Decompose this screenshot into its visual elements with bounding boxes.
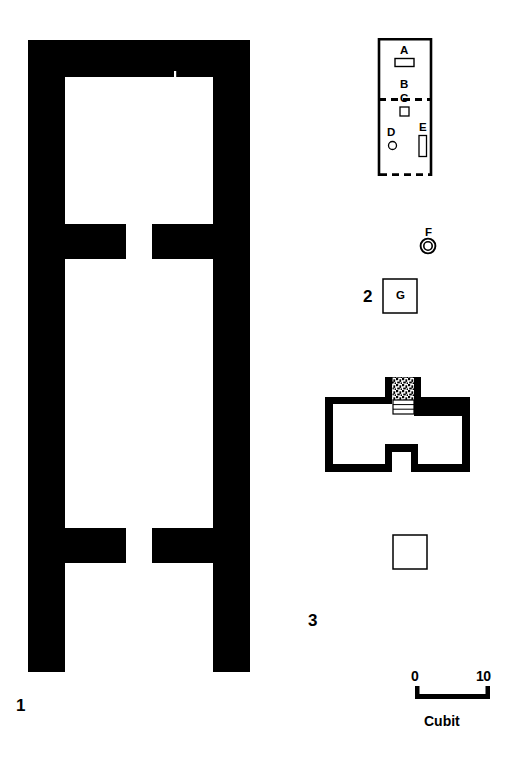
feature-label-d: D xyxy=(387,127,395,139)
plan-1-wall-nick xyxy=(174,71,176,78)
scale-min-label: 0 xyxy=(411,669,418,683)
plan-2-feature-f-shape xyxy=(421,239,436,254)
feature-label-f: F xyxy=(425,227,432,239)
scale-max-label: 10 xyxy=(476,669,491,683)
feature-label-c: C xyxy=(400,93,408,105)
plan-2-feature-d-shape xyxy=(389,142,397,150)
plan-2-number-label: 2 xyxy=(363,288,372,305)
scale-unit-label: Cubit xyxy=(424,714,460,728)
feature-label-b: B xyxy=(400,79,408,91)
plan-drawing-svg xyxy=(0,0,514,772)
feature-label-e: E xyxy=(419,122,427,134)
plan-3-detached-square xyxy=(393,535,427,569)
feature-label-a: A xyxy=(400,45,408,57)
plan-2-feature-a-shape xyxy=(395,59,414,67)
plan-1-number-label: 1 xyxy=(16,697,25,714)
plan-2-building xyxy=(378,38,432,176)
plan-1-building xyxy=(28,40,250,672)
plan-2-feature-e-shape xyxy=(419,136,427,157)
plan-3-building xyxy=(325,377,470,472)
feature-label-g: G xyxy=(396,290,405,302)
scale-bar-graphic xyxy=(415,686,490,699)
plan-2-feature-c-shape xyxy=(400,107,409,116)
plan-3-stepped-altar xyxy=(393,400,414,414)
plan-3-number-label: 3 xyxy=(308,612,317,629)
figure-canvas: 1 2 3 A B C D E F G 0 10 Cubit xyxy=(0,0,514,772)
plan-3-rubble-niche xyxy=(393,378,415,401)
